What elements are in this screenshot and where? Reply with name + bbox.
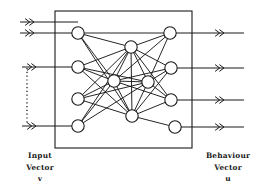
network-edge [136, 35, 164, 45]
behaviour-vector-label: Behaviour Vector u [196, 150, 260, 185]
network-diagram: Input Vector v Behaviour Vector u [0, 0, 262, 190]
network-edge [153, 71, 166, 79]
output-label-line-1: Behaviour [196, 150, 260, 162]
input-vector-label: Input Vector v [4, 150, 76, 185]
input-label-line-2: Vector [4, 162, 76, 174]
node-group [72, 27, 181, 133]
hidden-node-M4 [126, 110, 138, 122]
input-node-L4 [72, 120, 84, 132]
hidden-node-M3 [142, 76, 154, 88]
input-node-L1 [72, 27, 84, 39]
hidden-node-M2 [108, 75, 120, 87]
input-node-L3 [72, 93, 84, 105]
network-edge [120, 81, 143, 82]
input-label-line-1: Input [4, 150, 76, 162]
input-node-L2 [72, 61, 84, 73]
network-edge [81, 52, 128, 122]
output-node-R1 [164, 27, 176, 39]
output-label-line-2: Vector [196, 162, 260, 174]
input-label-symbol: v [4, 173, 76, 185]
output-label-symbol: u [196, 173, 260, 185]
output-node-R2 [165, 62, 177, 74]
network-edge [138, 117, 170, 125]
output-node-R3 [165, 94, 177, 106]
network-edge [84, 34, 126, 45]
hidden-node-M1 [125, 41, 137, 53]
output-node-R4 [169, 121, 181, 133]
